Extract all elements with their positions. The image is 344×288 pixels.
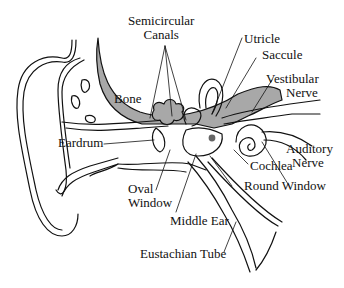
label-eustachian-tube: Eustachian Tube xyxy=(140,247,226,261)
label-bone: Bone xyxy=(114,92,141,106)
label-auditory-nerve: Auditory Nerve xyxy=(286,142,333,170)
round-window-dot xyxy=(209,135,216,142)
label-eardrum: Eardrum xyxy=(58,136,103,150)
cochlea xyxy=(236,125,266,156)
ossicles xyxy=(152,100,183,125)
label-middle-ear: Middle Ear xyxy=(170,214,229,228)
label-round-window: Round Window xyxy=(244,179,326,193)
label-saccule: Saccule xyxy=(262,48,302,62)
bone-region xyxy=(97,38,282,128)
label-cochlea: Cochlea xyxy=(250,159,293,173)
label-oval-window: Oval Window xyxy=(128,182,172,210)
label-vestibular-nerve: Vestibular Nerve xyxy=(266,72,319,100)
label-semicircular-canals: Semicircular Canals xyxy=(128,14,194,42)
ear-anatomy-diagram: Semicircular Canals Utricle Saccule Vest… xyxy=(0,0,344,288)
label-utricle: Utricle xyxy=(244,32,280,46)
